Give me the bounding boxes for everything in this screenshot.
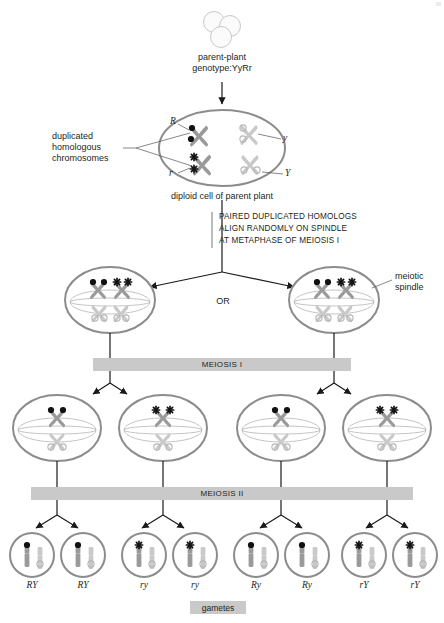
gamete-label-3: ry	[121, 580, 167, 590]
or-label: OR	[203, 296, 243, 307]
diagram-canvas: III	[0, 0, 444, 623]
metaphase-note-line1: PAIRED DUPLICATED HOMOLOGS	[219, 212, 357, 223]
allele-label-r: r	[169, 168, 173, 178]
stems-to-meiosis2	[57, 461, 387, 487]
gamete-label-5: Ry	[233, 580, 279, 590]
pea-seed-cluster	[204, 12, 241, 48]
meiosis-1-bar: MEIOSIS I	[93, 358, 351, 371]
arrow-split-left	[150, 272, 222, 287]
diploid-cell-caption: diploid cell of parent plant	[142, 191, 302, 202]
duplicated-label-line2: homologous	[52, 142, 101, 153]
gamete-cell-6	[285, 533, 329, 577]
meiosis-2-bar-label: MEIOSIS II	[200, 489, 243, 498]
gamete-label-8: rY	[392, 580, 438, 590]
meiosis-2-bar: MEIOSIS II	[31, 487, 413, 500]
meiotic-spindle-label-line2: spindle	[395, 282, 424, 293]
gamete-label-1: RY	[9, 580, 55, 590]
metaphase-cell-right	[289, 267, 379, 333]
metaphase-note-line2: ALIGN RANDOMLY ON SPINDLE	[219, 224, 347, 235]
meiotic-spindle-label-line1: meiotic	[395, 271, 424, 282]
gamete-label-4: ry	[172, 580, 218, 590]
gamete-cell-2	[61, 533, 105, 577]
allele-label-y: y	[283, 133, 287, 143]
metaphase-cell-left	[65, 267, 155, 333]
duplicated-label-line1: duplicated	[52, 131, 93, 142]
gamete-cell-3	[122, 533, 166, 577]
meiosis2-output-arrows	[36, 500, 408, 528]
duplicated-label-line3: chromosomes	[52, 153, 109, 164]
metaphase2-cell-2	[119, 395, 207, 461]
metaphase2-cell-1	[13, 395, 101, 461]
parent-plant-caption-line2: genotype:YyRr	[162, 63, 282, 74]
gametes-caption-label: gametes	[202, 603, 235, 613]
gamete-cell-8	[393, 533, 437, 577]
gamete-label-7: rY	[341, 580, 387, 590]
metaphase-note-line3: AT METAPHASE OF MEIOSIS I	[219, 236, 339, 247]
gamete-label-6: Ry	[284, 580, 330, 590]
metaphase2-cell-3	[237, 395, 325, 461]
gamete-cell-5	[234, 533, 278, 577]
gamete-cell-4	[173, 533, 217, 577]
allele-label-R: R	[170, 116, 176, 126]
meiosis1-output-arrows	[93, 371, 351, 394]
diagram-vector-layer	[0, 0, 444, 623]
gametes-caption-box: gametes	[190, 601, 246, 614]
arrow-split-right	[222, 272, 294, 287]
meiosis-1-bar-label: MEIOSIS I	[202, 360, 243, 369]
diploid-cell	[159, 110, 285, 186]
metaphase2-cell-4	[343, 395, 431, 461]
parent-plant-caption-line1: parent-plant	[172, 52, 272, 63]
gamete-cell-7	[342, 533, 386, 577]
spindle-leader-line	[372, 280, 392, 288]
gamete-cell-1	[10, 533, 54, 577]
gamete-label-2: RY	[60, 580, 106, 590]
allele-label-Y: Y	[285, 168, 290, 178]
